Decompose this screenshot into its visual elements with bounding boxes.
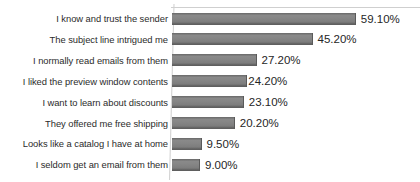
category-label: I know and trust the sender bbox=[0, 13, 168, 24]
bar-value-label: 23.10% bbox=[249, 96, 288, 108]
bar-and-value: 23.10% bbox=[172, 96, 288, 108]
bar-and-value: 20.20% bbox=[172, 117, 279, 129]
bar-value-label: 9.00% bbox=[205, 159, 238, 171]
bar-row: They offered me free shipping20.20% bbox=[0, 113, 420, 134]
bar-and-value: 45.20% bbox=[172, 33, 357, 45]
bar-row: I normally read emails from them27.20% bbox=[0, 50, 420, 71]
bar-value-label: 27.20% bbox=[262, 54, 301, 66]
category-label: I seldom get an email from them bbox=[0, 159, 168, 170]
bar-row: I know and trust the sender59.10% bbox=[0, 8, 420, 29]
category-label: The subject line intrigued me bbox=[0, 34, 168, 45]
bar-row: Looks like a catalog I have at home9.50% bbox=[0, 133, 420, 154]
bar-and-value: 59.10% bbox=[172, 13, 400, 25]
bar bbox=[172, 54, 257, 66]
category-label: Looks like a catalog I have at home bbox=[0, 138, 168, 149]
bar-row: I seldom get an email from them9.00% bbox=[0, 154, 420, 175]
bar bbox=[172, 96, 244, 108]
bar-row: The subject line intrigued me45.20% bbox=[0, 29, 420, 50]
bar bbox=[172, 13, 356, 25]
bar-and-value: 24.20% bbox=[172, 75, 287, 87]
category-label: They offered me free shipping bbox=[0, 118, 168, 129]
bar-value-label: 45.20% bbox=[318, 33, 357, 45]
bar bbox=[172, 138, 202, 150]
bar-rows: I know and trust the sender59.10%The sub… bbox=[0, 0, 420, 182]
bar bbox=[172, 33, 313, 45]
bar bbox=[172, 75, 247, 87]
category-label: I want to learn about discounts bbox=[0, 97, 168, 108]
category-label: I liked the preview window contents bbox=[0, 76, 168, 87]
bar-and-value: 9.00% bbox=[172, 159, 238, 171]
bar-row: I want to learn about discounts23.10% bbox=[0, 92, 420, 113]
bar-and-value: 27.20% bbox=[172, 54, 301, 66]
bar-value-label: 24.20% bbox=[248, 75, 287, 87]
bar-value-label: 20.20% bbox=[240, 117, 279, 129]
bar bbox=[172, 159, 200, 171]
bar-value-label: 59.10% bbox=[361, 13, 400, 25]
bar bbox=[172, 117, 235, 129]
bar-and-value: 9.50% bbox=[172, 138, 239, 150]
bar-value-label: 9.50% bbox=[207, 138, 240, 150]
bar-row: I liked the preview window contents24.20… bbox=[0, 71, 420, 92]
horizontal-bar-chart: I know and trust the sender59.10%The sub… bbox=[0, 0, 420, 182]
category-label: I normally read emails from them bbox=[0, 55, 168, 66]
